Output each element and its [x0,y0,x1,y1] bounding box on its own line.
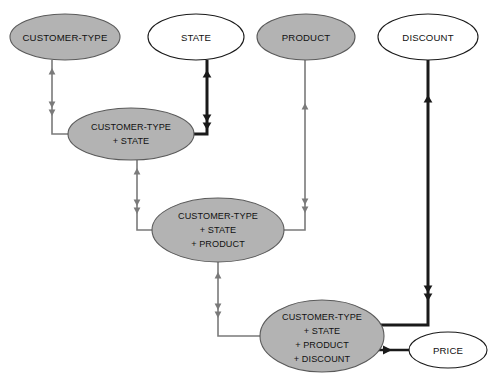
arrowhead-down-icon [215,304,222,311]
node-layer: CUSTOMER-TYPE STATE PRODUCT DISCOUNT CUS… [10,14,487,372]
arrowhead-right-icon [383,346,392,355]
aggregation-lattice-diagram: CUSTOMER-TYPE STATE PRODUCT DISCOUNT CUS… [0,0,493,376]
arrowhead-up-icon [215,272,222,279]
arrowhead-down-icon [49,102,56,109]
arrowhead-up-icon [203,70,212,78]
edge-ctsp-to-ctspd [215,262,262,336]
node-customer-type[interactable]: CUSTOMER-TYPE [10,14,120,60]
arrowhead-down-icon [49,110,56,117]
arrowhead-up-icon [302,103,309,110]
node-discount[interactable]: DISCOUNT [378,14,478,60]
edge-product-to-ctsp [282,60,308,230]
arrowhead-up-icon [134,168,141,175]
node-price[interactable]: PRICE [409,332,487,368]
node-label-ctsp-line3: + PRODUCT [191,239,245,249]
arrowhead-down-icon [134,208,141,215]
node-label-ctspd-line3: + PRODUCT [295,340,349,350]
node-label-customer-type-state-line1: CUSTOMER-TYPE [91,122,171,132]
edge-customer-type-to-cts [49,60,70,134]
node-product[interactable]: PRODUCT [257,14,355,60]
arrowhead-down-icon [424,286,433,294]
edge-discount-to-ctspd [378,60,432,325]
arrowhead-up-icon [424,95,433,103]
edge-cts-to-ctsp [134,160,155,230]
arrowhead-down-icon [215,312,222,319]
arrowhead-down-icon [134,200,141,207]
arrowhead-down-icon [203,123,212,131]
node-label-discount: DISCOUNT [402,32,453,43]
edge-state-to-cts [192,60,211,134]
node-label-product: PRODUCT [282,32,331,43]
arrowhead-down-icon [302,199,309,206]
arrowhead-down-icon [424,294,433,302]
node-customer-type-state-product[interactable]: CUSTOMER-TYPE + STATE + PRODUCT [152,198,284,262]
node-label-ctsp-line2: + STATE [200,225,237,235]
node-label-ctspd-line2: + STATE [304,326,341,336]
node-label-customer-type: CUSTOMER-TYPE [23,32,108,43]
node-label-customer-type-state-line2: + STATE [113,136,150,146]
arrowhead-up-icon [49,68,56,75]
node-label-state: STATE [181,32,211,43]
diagram-canvas: CUSTOMER-TYPE STATE PRODUCT DISCOUNT CUS… [0,0,493,376]
node-customer-type-state-product-discount[interactable]: CUSTOMER-TYPE + STATE + PRODUCT + DISCOU… [260,300,384,372]
node-shape-ellipse [68,108,194,160]
node-state[interactable]: STATE [148,14,244,60]
node-label-ctspd-line4: + DISCOUNT [294,354,351,364]
node-label-ctspd-line1: CUSTOMER-TYPE [282,312,362,322]
node-label-price: PRICE [433,345,463,356]
node-label-ctsp-line1: CUSTOMER-TYPE [178,211,258,221]
arrowhead-down-icon [203,115,212,123]
arrowhead-down-icon [302,207,309,214]
node-customer-type-state[interactable]: CUSTOMER-TYPE + STATE [68,108,194,160]
